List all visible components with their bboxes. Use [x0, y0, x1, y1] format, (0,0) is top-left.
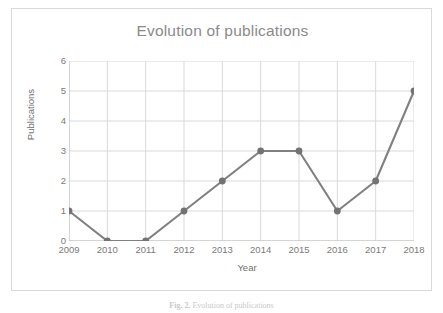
- x-tick-label: 2018: [392, 245, 436, 255]
- data-point-marker: [334, 208, 341, 215]
- data-point-marker: [181, 208, 188, 215]
- data-point-marker: [257, 148, 264, 155]
- y-axis-title: Publications: [25, 70, 36, 160]
- y-tick-label: 3: [50, 146, 66, 156]
- y-tick-label: 2: [50, 176, 66, 186]
- y-axis-tick-labels: 0123456: [48, 61, 66, 241]
- line-chart-svg: [69, 61, 414, 241]
- y-tick-label: 1: [50, 206, 66, 216]
- horizontal-gridlines: [69, 61, 414, 241]
- y-tick-label: 5: [50, 86, 66, 96]
- series-line: [69, 91, 414, 241]
- data-point-marker: [411, 88, 414, 95]
- x-axis-tick-labels: 2009201020112012201320142015201620172018: [69, 245, 414, 261]
- chart-frame: Evolution of publications Publications 0…: [11, 8, 432, 291]
- x-axis-title: Year: [67, 262, 427, 273]
- figure-caption-label: Fig. 2.: [169, 301, 190, 310]
- data-point-marker: [372, 178, 379, 185]
- data-point-marker: [219, 178, 226, 185]
- y-tick-label: 6: [50, 56, 66, 66]
- figure-caption-text: Evolution of publications: [192, 301, 273, 310]
- figure-caption: Fig. 2. Evolution of publications: [0, 301, 443, 310]
- y-tick-label: 4: [50, 116, 66, 126]
- data-point-marker: [296, 148, 303, 155]
- figure-root: Evolution of publications Publications 0…: [0, 0, 443, 313]
- plot-area: [69, 61, 414, 241]
- chart-title: Evolution of publications: [12, 22, 433, 40]
- series-markers: [69, 88, 414, 241]
